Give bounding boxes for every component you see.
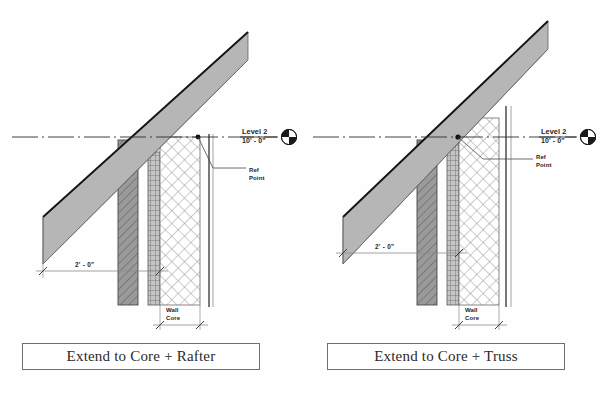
level-head-group[interactable]: Level 2 10' - 0" <box>240 127 297 145</box>
wall-layer-sheathing <box>447 137 459 305</box>
panel-extend-to-core-truss: Level 2 10' - 0" Ref Point <box>305 0 609 393</box>
rafter-member <box>43 32 248 264</box>
wall-layer-sheathing <box>148 152 160 305</box>
ref-point-label-line2: Point <box>536 162 552 168</box>
caption-box-left: Extend to Core + Rafter <box>22 343 260 370</box>
elevation-label: 10' - 0" <box>541 137 565 144</box>
wall-layer-core <box>459 118 499 305</box>
wall-core-dimension-group[interactable]: Wall Core <box>153 305 208 330</box>
wall-layer-exterior-finish <box>209 134 213 307</box>
caption-label-left: Extend to Core + Rafter <box>67 348 216 365</box>
truss-member <box>343 21 548 264</box>
panel-extend-to-core-rafter: Level 2 10' - 0" Ref Point <box>0 0 304 393</box>
wall-core-label-line2: Core <box>465 315 480 321</box>
ref-point-label-line1: Ref <box>536 154 547 160</box>
ref-point-leader-line <box>198 137 246 168</box>
caption-label-right: Extend to Core + Truss <box>374 348 518 365</box>
caption-box-right: Extend to Core + Truss <box>327 343 565 370</box>
overhang-dimension-label: 2' - 0" <box>75 261 94 268</box>
overhang-dimension-label: 2' - 0" <box>375 243 394 250</box>
level-head-circle-icon <box>580 129 595 144</box>
wall-core-label-line1: Wall <box>166 307 179 313</box>
level-label: Level 2 <box>242 127 267 136</box>
wall-layer-core <box>160 137 200 305</box>
wall-core-label-line2: Core <box>166 315 181 321</box>
level-head-circle-icon <box>281 129 296 144</box>
ref-point-label-line2: Point <box>249 175 265 181</box>
wall-layer-exterior-finish <box>506 106 511 307</box>
diagram-canvas: Level 2 10' - 0" Ref Point <box>0 0 609 393</box>
wall-core-dimension-group[interactable]: Wall Core <box>452 305 507 330</box>
level-head-group[interactable]: Level 2 10' - 0" <box>539 127 596 145</box>
level-label: Level 2 <box>541 127 566 136</box>
wall-core-label-line1: Wall <box>465 307 478 313</box>
drawing-right: Level 2 10' - 0" Ref Point <box>305 0 609 343</box>
drawing-left: Level 2 10' - 0" Ref Point <box>0 0 304 343</box>
elevation-label: 10' - 0" <box>242 137 266 144</box>
ref-point-label-line1: Ref <box>249 167 260 173</box>
